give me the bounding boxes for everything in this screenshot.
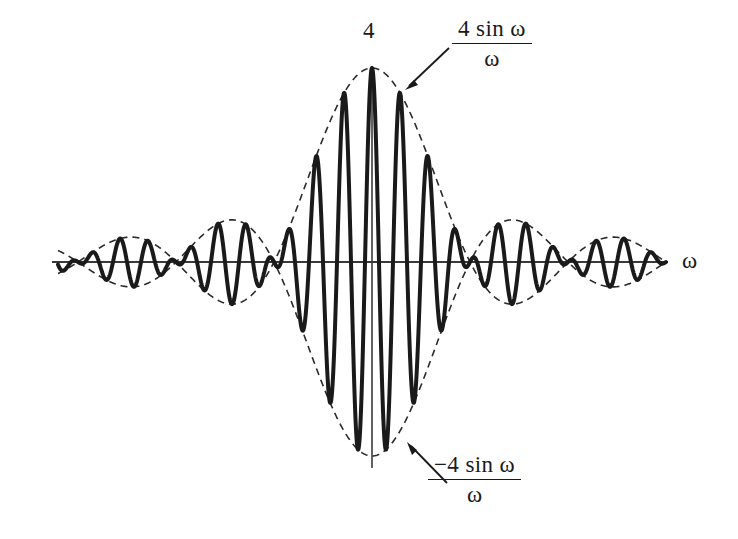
upper-envelope-fraction: 4 sin ω ω: [452, 16, 532, 72]
peak-value-label: 4: [363, 18, 375, 44]
upper-envelope-numerator: 4 sin ω: [452, 16, 532, 44]
upper-envelope-annotation: 4 sin ω ω: [452, 16, 532, 72]
lower-envelope-numerator: −4 sin ω: [428, 452, 521, 480]
sinc-modulated-wave-figure: [0, 0, 738, 539]
lower-envelope-denominator: ω: [428, 480, 521, 508]
lower-envelope-annotation: −4 sin ω ω: [428, 452, 521, 508]
upper-envelope-denominator: ω: [452, 44, 532, 72]
lower-envelope-fraction: −4 sin ω ω: [428, 452, 521, 508]
x-axis-label: ω: [682, 248, 697, 274]
x-axis-label-text: ω: [682, 248, 697, 273]
peak-value-text: 4: [363, 18, 375, 43]
